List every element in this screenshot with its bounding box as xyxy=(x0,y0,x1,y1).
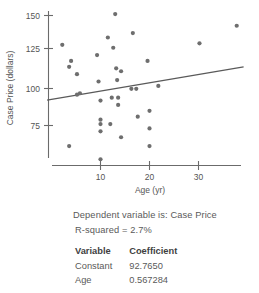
data-point xyxy=(95,53,99,57)
data-point xyxy=(98,118,102,122)
x-tick-label-10: 10 xyxy=(96,172,106,182)
data-points-group xyxy=(60,12,239,161)
cell-coefficient-constant: 92.7650 xyxy=(112,261,177,275)
table-header-row: Variable Coefficient xyxy=(75,246,177,261)
data-point xyxy=(147,144,151,148)
data-point xyxy=(145,59,149,63)
data-point xyxy=(98,129,102,133)
data-point xyxy=(119,135,123,139)
column-header-variable: Variable xyxy=(75,246,112,261)
y-axis: 150 125 100 75 Case Price (dollars) xyxy=(5,11,53,158)
data-point xyxy=(115,78,119,82)
data-point xyxy=(78,91,82,95)
data-point xyxy=(108,122,112,126)
y-tick-label-125: 125 xyxy=(26,44,40,54)
data-point xyxy=(75,72,79,76)
data-point xyxy=(60,43,64,47)
data-point xyxy=(147,126,151,130)
data-point xyxy=(114,66,118,70)
data-point xyxy=(131,31,135,35)
table-row: Constant 92.7650 xyxy=(75,261,177,275)
x-axis-title: Age (yr) xyxy=(135,185,165,195)
cell-coefficient-age: 0.567284 xyxy=(112,275,177,289)
data-point xyxy=(96,79,100,83)
data-point xyxy=(134,87,138,91)
data-point xyxy=(98,98,102,102)
scatterplot-svg: 150 125 100 75 Case Price (dollars) 10 2… xyxy=(0,0,259,196)
cell-variable-age: Age xyxy=(75,275,112,289)
data-point xyxy=(197,41,201,45)
data-point xyxy=(110,96,114,100)
data-point xyxy=(119,69,123,73)
data-point xyxy=(156,84,160,88)
data-point xyxy=(116,103,120,107)
data-point xyxy=(98,122,102,126)
y-axis-title: Case Price (dollars) xyxy=(5,51,15,126)
x-axis: 10 20 30 Age (yr) xyxy=(52,161,241,195)
data-point xyxy=(106,35,110,39)
y-tick-label-150: 150 xyxy=(26,11,40,21)
regression-readout: Dependent variable is: Case Price R-squa… xyxy=(0,198,259,293)
dependent-variable-text: Dependent variable is: Case Price xyxy=(73,210,217,220)
table-row: Age 0.567284 xyxy=(75,275,177,289)
data-point xyxy=(113,12,117,16)
x-tick-label-20: 20 xyxy=(145,172,155,182)
column-header-coefficient: Coefficient xyxy=(112,246,177,261)
scatterplot-figure: 150 125 100 75 Case Price (dollars) 10 2… xyxy=(0,0,259,196)
y-tick-label-100: 100 xyxy=(26,84,40,94)
data-point xyxy=(67,65,71,69)
coefficient-table: Variable Coefficient Constant 92.7650 Ag… xyxy=(75,246,177,289)
data-point xyxy=(136,115,140,119)
data-point xyxy=(116,96,120,100)
data-point xyxy=(111,46,115,50)
r-squared-text: R-squared = 2.7% xyxy=(75,225,152,235)
x-tick-label-30: 30 xyxy=(194,172,204,182)
cell-variable-constant: Constant xyxy=(75,261,112,275)
data-point xyxy=(129,87,133,91)
data-point xyxy=(67,144,71,148)
data-point xyxy=(235,24,239,28)
data-point xyxy=(147,109,151,113)
y-tick-label-75: 75 xyxy=(31,121,41,131)
data-point xyxy=(69,59,73,63)
data-point xyxy=(98,157,102,161)
